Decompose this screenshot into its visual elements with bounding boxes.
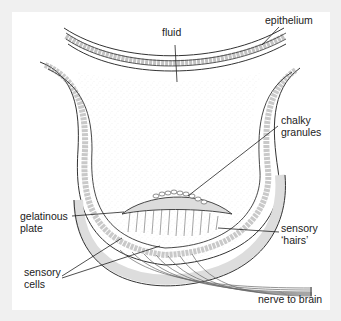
- label-sensory-hairs-line1: sensory: [281, 222, 318, 234]
- label-sensory-cells-line1: sensory: [24, 266, 61, 278]
- label-epithelium: epithelium: [265, 14, 313, 26]
- label-sensory-hairs: sensory ‘hairs’: [281, 222, 318, 246]
- label-sensory-cells: sensory cells: [24, 266, 61, 290]
- label-gelatinous-plate-line1: gelatinous: [20, 210, 68, 222]
- label-nerve-to-brain: nerve to brain: [258, 293, 322, 305]
- label-chalky-granules: chalky granules: [281, 114, 321, 138]
- label-chalky-granules-line2: granules: [281, 126, 321, 138]
- label-sensory-hairs-line2: ‘hairs’: [281, 234, 318, 246]
- label-gelatinous-plate-line2: plate: [20, 222, 68, 234]
- label-chalky-granules-line1: chalky: [281, 114, 321, 126]
- label-sensory-cells-line2: cells: [24, 278, 61, 290]
- label-gelatinous-plate: gelatinous plate: [20, 210, 68, 234]
- label-fluid: fluid: [162, 26, 181, 38]
